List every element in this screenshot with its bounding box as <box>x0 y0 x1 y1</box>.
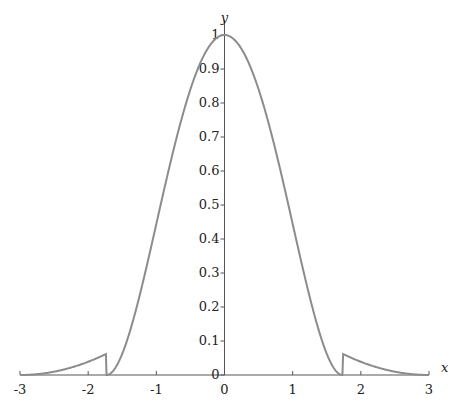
y-tick-label: 0.4 <box>199 231 220 246</box>
x-axis-label: x <box>441 360 449 375</box>
x-tick-label: 3 <box>425 382 433 397</box>
x-tick-label: -1 <box>150 382 163 397</box>
y-tick-label: 0.1 <box>199 333 220 348</box>
y-tick-label: 0.3 <box>199 265 220 280</box>
y-tick-label: 0.2 <box>199 299 220 314</box>
x-tick-label: 2 <box>357 382 365 397</box>
y-tick-label: 0.8 <box>199 95 220 110</box>
chart: -3-2-1012300.10.20.30.40.50.60.70.80.91 … <box>0 0 461 413</box>
y-tick-label: 0.7 <box>199 129 220 144</box>
x-tick-label: 0 <box>220 382 228 397</box>
y-tick-label: 0.9 <box>199 61 220 76</box>
x-tick-label: -2 <box>82 382 95 397</box>
x-tick-label: -3 <box>14 382 27 397</box>
y-tick-label: 0 <box>211 367 219 382</box>
y-axis-label: y <box>220 10 229 25</box>
x-tick-label: 1 <box>289 382 297 397</box>
y-tick-label: 0.5 <box>199 197 220 212</box>
y-tick-label: 0.6 <box>199 163 220 178</box>
axes <box>20 20 429 375</box>
